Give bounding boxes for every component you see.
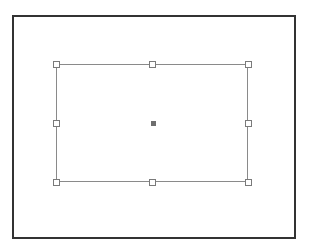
center-anchor-icon[interactable] xyxy=(151,121,156,126)
resize-handle-bottom-right[interactable] xyxy=(245,179,252,186)
resize-handle-top-center[interactable] xyxy=(149,61,156,68)
resize-handle-middle-right[interactable] xyxy=(245,120,252,127)
resize-handle-top-left[interactable] xyxy=(53,61,60,68)
resize-handle-bottom-left[interactable] xyxy=(53,179,60,186)
resize-handle-middle-left[interactable] xyxy=(53,120,60,127)
resize-handle-top-right[interactable] xyxy=(245,61,252,68)
resize-handle-bottom-center[interactable] xyxy=(149,179,156,186)
